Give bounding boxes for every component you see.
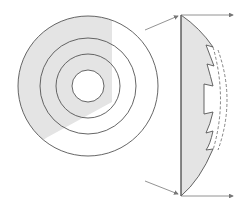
- diagram-canvas: [0, 0, 245, 212]
- dashed-curve-inner: [213, 47, 221, 150]
- side-view-dashed-convex-outline: [213, 47, 227, 150]
- front-view-shaded-segment: [10, 0, 112, 170]
- projection-arrows: [145, 16, 178, 194]
- side-view-fresnel-profile: [181, 15, 214, 196]
- fresnel-lens-diagram: [0, 0, 245, 212]
- projection-arrow-bottom: [145, 181, 178, 194]
- dashed-curve-outer: [218, 50, 227, 150]
- projection-arrow-top: [145, 16, 178, 30]
